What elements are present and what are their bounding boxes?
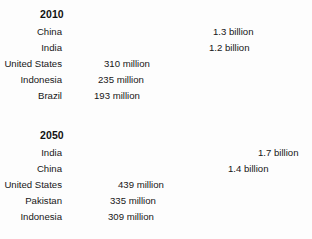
category-label-united-states-2010: United States	[4, 58, 62, 69]
bar-rows-2010: China 1.3 billion India 1.2 billion Unit…	[0, 25, 312, 105]
bar-india-2050	[65, 147, 252, 158]
bar-china-2010	[65, 26, 207, 37]
bar-brazil-2010	[65, 90, 88, 101]
panel-title-2050: 2050	[40, 129, 64, 141]
value-label-china-2050: 1.4 billion	[228, 163, 269, 174]
category-label-brazil-2010: Brazil	[38, 90, 62, 101]
bar-indonesia-2050	[65, 211, 102, 222]
value-label-brazil-2010: 193 million	[94, 90, 140, 101]
population-bar-chart: 2010 China 1.3 billion India 1.2 billion…	[0, 0, 312, 239]
value-label-china-2010: 1.3 billion	[213, 26, 254, 37]
bar-united-states-2050	[65, 179, 112, 190]
table-row: India 1.2 billion	[0, 41, 312, 57]
category-label-india-2010: India	[41, 42, 62, 53]
panel-title-2010: 2010	[40, 8, 64, 20]
bar-united-states-2010	[65, 58, 98, 69]
table-row: Pakistan 335 million	[0, 194, 312, 210]
value-label-india-2010: 1.2 billion	[209, 42, 250, 53]
category-label-united-states-2050: United States	[4, 179, 62, 190]
bar-rows-2050: India 1.7 billion China 1.4 billion Unit…	[0, 146, 312, 226]
value-label-pakistan-2050: 335 million	[110, 195, 156, 206]
table-row: United States 310 million	[0, 57, 312, 73]
value-label-indonesia-2050: 309 million	[108, 211, 154, 222]
value-label-indonesia-2010: 235 million	[98, 74, 144, 85]
bar-india-2010	[65, 42, 203, 53]
value-label-united-states-2050: 439 million	[118, 179, 164, 190]
category-label-pakistan-2050: Pakistan	[25, 195, 62, 206]
category-label-china-2050: China	[37, 163, 62, 174]
category-label-indonesia-2050: Indonesia	[20, 211, 62, 222]
value-label-india-2050: 1.7 billion	[258, 147, 299, 158]
value-label-united-states-2010: 310 million	[104, 58, 150, 69]
bar-china-2050	[65, 163, 222, 174]
table-row: Indonesia 235 million	[0, 73, 312, 89]
table-row: United States 439 million	[0, 178, 312, 194]
table-row: Indonesia 309 million	[0, 210, 312, 226]
table-row: China 1.4 billion	[0, 162, 312, 178]
table-row: Brazil 193 million	[0, 89, 312, 105]
bar-indonesia-2010	[65, 74, 92, 85]
bar-pakistan-2050	[65, 195, 104, 206]
table-row: India 1.7 billion	[0, 146, 312, 162]
table-row: China 1.3 billion	[0, 25, 312, 41]
category-label-indonesia-2010: Indonesia	[20, 74, 62, 85]
category-label-india-2050: India	[41, 147, 62, 158]
category-label-china-2010: China	[37, 26, 62, 37]
